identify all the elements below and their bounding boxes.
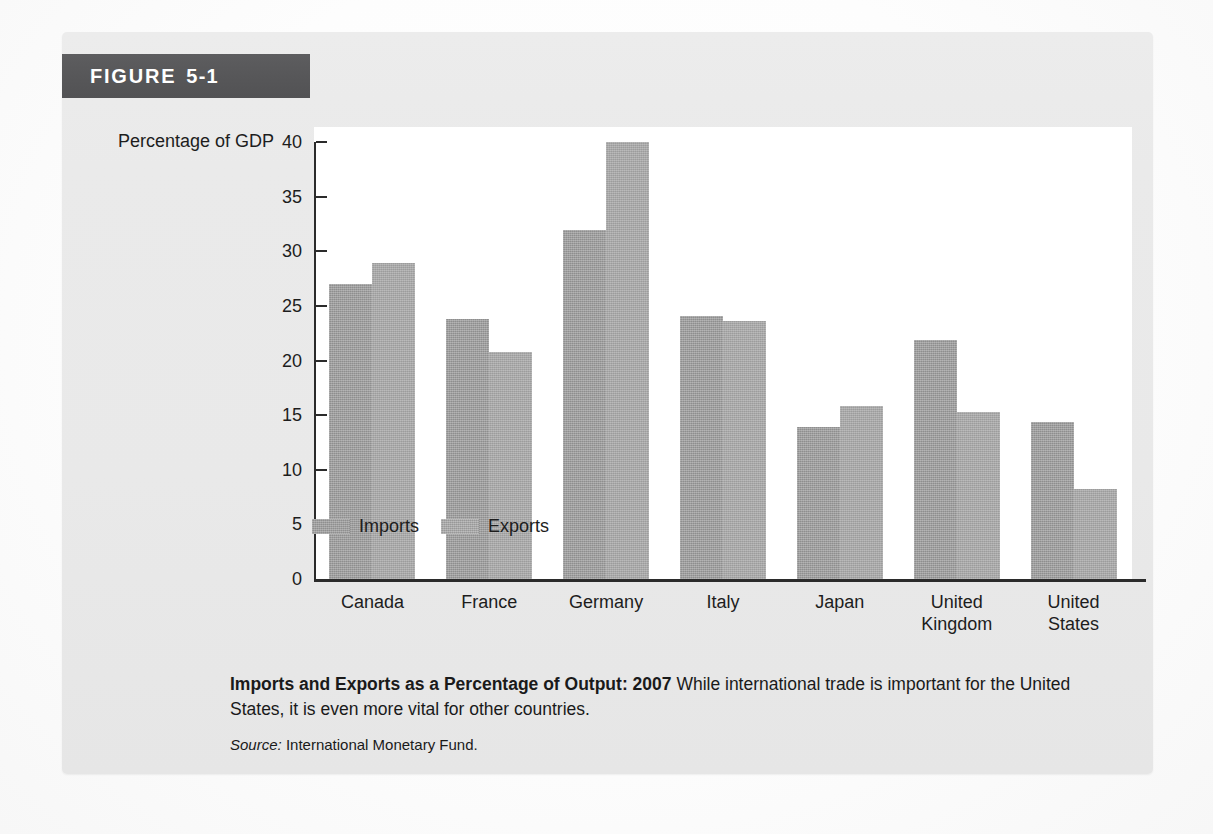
bar-united-kingdom-imports	[914, 340, 957, 579]
bar-united-states-imports	[1031, 422, 1074, 579]
bar-france-exports	[489, 352, 532, 579]
legend-swatch-imports	[312, 519, 350, 534]
bar-italy-exports	[723, 321, 766, 579]
caption-block: Imports and Exports as a Percentage of O…	[230, 672, 1075, 753]
legend-item-exports: Exports	[441, 516, 549, 537]
bar-japan-imports	[797, 427, 840, 579]
figure-card: FIGURE 5-1 Percentage of GDP 05101520253…	[62, 32, 1153, 774]
bars-layer	[62, 32, 1153, 774]
caption-text: Imports and Exports as a Percentage of O…	[230, 672, 1075, 722]
chart-legend: ImportsExports	[312, 516, 549, 537]
legend-label-exports: Exports	[488, 516, 549, 537]
bar-united-states-exports	[1074, 489, 1117, 579]
legend-swatch-exports	[441, 519, 479, 534]
bar-germany-exports	[606, 142, 649, 579]
page-background: FIGURE 5-1 Percentage of GDP 05101520253…	[0, 0, 1213, 834]
legend-item-imports: Imports	[312, 516, 419, 537]
legend-label-imports: Imports	[359, 516, 419, 537]
source-text: International Monetary Fund.	[286, 736, 478, 753]
bar-italy-imports	[680, 316, 723, 579]
source-label: Source:	[230, 736, 282, 753]
bar-germany-imports	[563, 230, 606, 579]
bar-france-imports	[446, 319, 489, 579]
bar-united-kingdom-exports	[957, 412, 1000, 579]
caption-title: Imports and Exports as a Percentage of O…	[230, 674, 672, 694]
bar-japan-exports	[840, 406, 883, 579]
source-line: Source: International Monetary Fund.	[230, 736, 1075, 753]
